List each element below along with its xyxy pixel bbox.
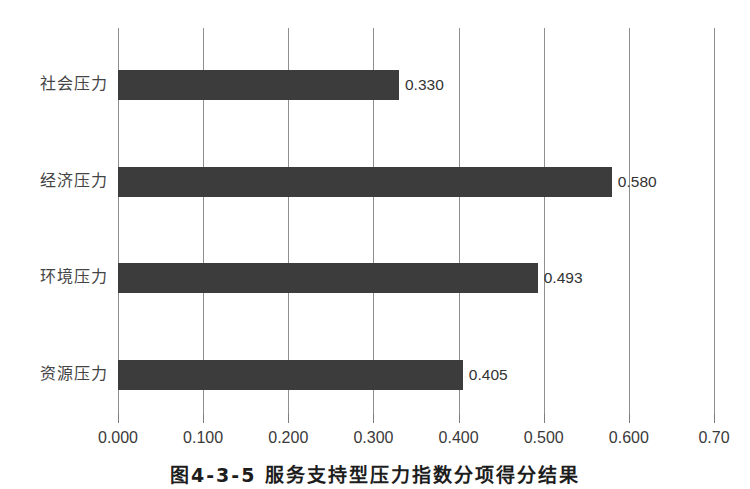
figure-caption: 图4-3-5 服务支持型压力指数分项得分结果 (0, 463, 750, 489)
x-tick-mark (544, 414, 545, 423)
x-tick-label: 0.70 (698, 430, 729, 446)
x-tick-mark (288, 414, 289, 423)
gridline (714, 28, 715, 414)
bar-value-label: 0.405 (469, 367, 508, 383)
gridline (629, 28, 630, 414)
x-tick-mark (203, 414, 204, 423)
x-tick-mark (714, 414, 715, 423)
bar-value-label: 0.580 (618, 174, 657, 190)
category-label: 社会压力 (40, 76, 108, 92)
category-label: 资源压力 (40, 366, 108, 382)
bar-value-label: 0.330 (405, 77, 444, 93)
category-label: 环境压力 (40, 269, 108, 285)
bar (118, 263, 538, 293)
category-label: 经济压力 (40, 173, 108, 189)
bar (118, 167, 612, 197)
bar (118, 70, 399, 100)
gridline (459, 28, 460, 414)
plot-area: 0.3300.5800.4930.405 (118, 28, 714, 414)
x-tick-mark (373, 414, 374, 423)
x-tick-label: 0.000 (98, 430, 138, 446)
x-tick-label: 0.200 (268, 430, 308, 446)
x-tick-label: 0.300 (353, 430, 393, 446)
x-tick-label: 0.500 (524, 430, 564, 446)
x-tick-mark (118, 414, 119, 423)
x-tick-mark (629, 414, 630, 423)
category-axis-labels: 社会压力经济压力环境压力资源压力 (0, 28, 108, 414)
gridline (544, 28, 545, 414)
bar (118, 360, 463, 390)
x-tick-mark (459, 414, 460, 423)
bar-value-label: 0.493 (544, 270, 583, 286)
x-tick-label: 0.400 (439, 430, 479, 446)
x-tick-label: 0.100 (183, 430, 223, 446)
x-tick-label: 0.600 (609, 430, 649, 446)
